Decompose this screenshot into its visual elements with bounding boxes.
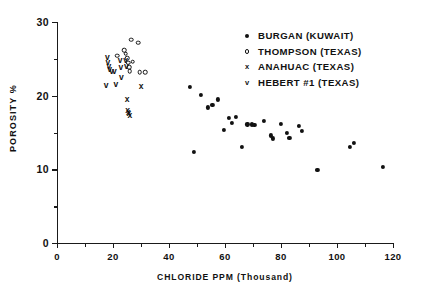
legend-item-2: xANAHUAC (TEXAS): [236, 59, 412, 75]
x-tick-label-60: 60: [219, 251, 230, 262]
data-point: v: [112, 67, 117, 76]
legend-marker-open-circle-icon: [236, 49, 258, 54]
data-point: [129, 37, 134, 42]
legend-marker-filled-circle-icon: [236, 34, 258, 38]
data-point: [300, 129, 304, 133]
legend-label: HEBERT #1 (TEXAS): [258, 77, 359, 88]
legend-marker-v-icon: v: [236, 79, 258, 87]
marker-glyph: v: [245, 79, 249, 87]
x-tick-minor-90: [309, 243, 310, 247]
data-point: x: [139, 82, 144, 91]
data-point: [216, 97, 220, 101]
data-point: [297, 124, 301, 128]
y-tick-minor-15: [54, 133, 58, 134]
chart-legend: BURGAN (KUWAIT)THOMPSON (TEXAS)xANAHUAC …: [236, 28, 412, 90]
x-axis-title: CHLORIDE PPM (Thousand): [157, 272, 293, 282]
legend-item-0: BURGAN (KUWAIT): [236, 28, 412, 44]
legend-label: BURGAN (KUWAIT): [258, 30, 354, 41]
y-axis-line: [57, 22, 58, 243]
data-point: [143, 70, 148, 75]
x-tick-minor-70: [253, 243, 254, 247]
x-tick-label-40: 40: [163, 251, 174, 262]
x-tick-minor-30: [141, 243, 142, 247]
data-point: [252, 123, 256, 127]
x-tick-100: [337, 243, 338, 248]
y-tick-label-20: 20: [37, 90, 49, 102]
data-point: [136, 40, 141, 45]
data-point: [227, 116, 231, 120]
y-axis-title: POROSITY %: [8, 84, 18, 152]
data-point: [137, 70, 142, 75]
marker-glyph: x: [245, 63, 249, 71]
data-point: [222, 128, 226, 132]
y-tick-30: [52, 22, 57, 23]
data-point: [315, 168, 319, 172]
x-tick-120: [393, 243, 394, 248]
y-tick-10: [52, 169, 57, 170]
legend-label: ANAHUAC (TEXAS): [258, 61, 354, 72]
data-point: [192, 150, 196, 154]
x-tick-0: [57, 243, 58, 248]
x-tick-label-20: 20: [107, 251, 118, 262]
y-tick-label-10: 10: [37, 163, 49, 175]
y-tick-label-0: 0: [43, 237, 49, 249]
data-point: x: [127, 111, 132, 120]
data-point: [287, 136, 291, 140]
x-tick-40: [169, 243, 170, 248]
y-tick-20: [52, 96, 57, 97]
x-tick-minor-110: [365, 243, 366, 247]
y-tick-minor-25: [54, 59, 58, 60]
x-tick-minor-10: [85, 243, 86, 247]
data-point: v: [113, 80, 118, 89]
legend-item-3: vHEBERT #1 (TEXAS): [236, 75, 412, 91]
data-point: [271, 136, 275, 140]
data-point: [199, 93, 203, 97]
x-tick-label-80: 80: [275, 251, 286, 262]
x-tick-label-120: 120: [384, 251, 401, 262]
legend-item-1: THOMPSON (TEXAS): [236, 44, 412, 60]
data-point: v: [104, 80, 109, 89]
marker-glyph: [245, 49, 250, 54]
data-point: v: [119, 73, 124, 82]
data-point: x: [125, 95, 130, 104]
marker-glyph: [245, 34, 249, 38]
data-point: [352, 141, 356, 145]
x-tick-minor-50: [197, 243, 198, 247]
data-point: [279, 122, 283, 126]
data-point: [188, 85, 192, 89]
data-point: [234, 115, 238, 119]
scatter-chart-figure: POROSITY % CHLORIDE PPM (Thousand) 01020…: [0, 0, 422, 292]
data-point: [348, 145, 352, 149]
legend-label: THOMPSON (TEXAS): [258, 46, 362, 57]
x-tick-80: [281, 243, 282, 248]
data-point: [262, 119, 266, 123]
x-tick-20: [113, 243, 114, 248]
data-point: [240, 145, 244, 149]
data-point: [230, 121, 234, 125]
data-point: v: [124, 62, 129, 71]
y-tick-minor-5: [54, 206, 58, 207]
x-tick-label-100: 100: [328, 251, 345, 262]
data-point: [130, 59, 135, 64]
x-tick-60: [225, 243, 226, 248]
data-point: [381, 165, 385, 169]
x-tick-label-0: 0: [54, 251, 60, 262]
data-point: [210, 103, 214, 107]
y-tick-label-30: 30: [37, 16, 49, 28]
legend-marker-x-icon: x: [236, 63, 258, 71]
